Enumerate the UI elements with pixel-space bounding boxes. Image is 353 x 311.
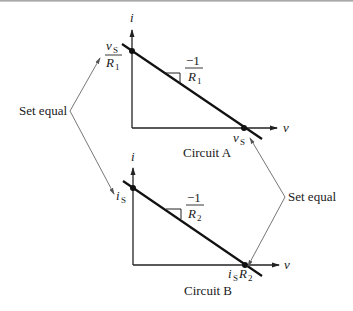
right-set-equal-connector: Set equal <box>248 138 336 266</box>
circuit-b-i-label: i <box>131 149 135 164</box>
circuit-a-y-intercept-label: v S R 1 <box>105 38 122 72</box>
svg-text:v: v <box>233 130 239 145</box>
circuit-b-graph: i v −1 R 2 i S i S R 2 Circuit B <box>116 149 290 298</box>
circuit-b-slope-label: −1 R 2 <box>186 190 204 223</box>
left-connector-arrow-up <box>70 58 100 111</box>
svg-text:v: v <box>106 38 112 53</box>
load-line-diagram: i v −1 R 1 v S R 1 v S Circuit A <box>0 0 353 311</box>
circuit-a-y-intercept-dot <box>129 48 135 54</box>
circuit-b-caption: Circuit B <box>184 283 232 298</box>
svg-text:−1: −1 <box>186 53 200 68</box>
svg-text:R: R <box>238 266 247 281</box>
circuit-b-y-intercept-dot <box>130 185 136 191</box>
circuit-b-v-label: v <box>284 257 290 272</box>
right-connector-arrow-up <box>250 138 285 197</box>
svg-text:i: i <box>228 266 232 281</box>
circuit-a-x-intercept-dot <box>241 125 247 131</box>
circuit-a-x-intercept-label: v S <box>233 130 245 147</box>
svg-text:R: R <box>105 55 114 70</box>
svg-text:−1: −1 <box>187 190 201 205</box>
circuit-b-slope-triangle <box>166 209 181 219</box>
circuit-a-i-label: i <box>130 10 134 25</box>
circuit-a-graph: i v −1 R 1 v S R 1 v S Circuit A <box>105 10 289 160</box>
circuit-b-y-intercept-label: i S <box>116 188 126 205</box>
svg-text:S: S <box>240 137 245 147</box>
circuit-a-slope-label: −1 R 1 <box>185 53 203 86</box>
right-connector-arrow-down <box>248 197 285 266</box>
circuit-a-v-label: v <box>283 120 289 135</box>
right-set-equal-label: Set equal <box>288 189 336 204</box>
svg-text:1: 1 <box>197 76 202 86</box>
svg-text:2: 2 <box>197 213 202 223</box>
circuit-b-x-intercept-label: i S R 2 <box>228 266 253 283</box>
svg-text:S: S <box>233 273 238 283</box>
left-set-equal-label: Set equal <box>19 103 67 118</box>
svg-text:2: 2 <box>248 273 253 283</box>
svg-text:1: 1 <box>115 62 120 72</box>
left-set-equal-connector: Set equal <box>19 58 114 194</box>
svg-text:S: S <box>121 195 126 205</box>
svg-text:i: i <box>116 188 120 203</box>
svg-text:R: R <box>187 206 196 221</box>
svg-text:R: R <box>187 69 196 84</box>
circuit-a-caption: Circuit A <box>183 145 232 160</box>
svg-text:S: S <box>113 45 118 55</box>
left-connector-arrow-down <box>70 111 114 194</box>
